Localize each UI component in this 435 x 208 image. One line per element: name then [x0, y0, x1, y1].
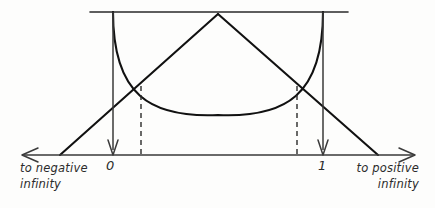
inverted-v-left-leg — [60, 14, 218, 155]
label-zero: 0 — [106, 158, 114, 173]
label-positive-infinity: to positive infinity — [309, 160, 419, 192]
semicircle-arc — [113, 12, 323, 115]
inverted-v-right-leg — [218, 14, 378, 155]
diagram-canvas: to negative infinity 0 1 to positive inf… — [0, 0, 435, 208]
